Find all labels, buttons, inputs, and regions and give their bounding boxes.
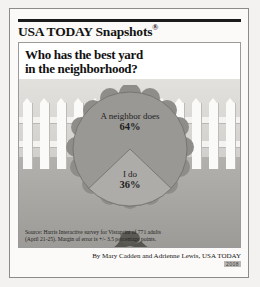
byline-credit: By Mary Cadden and Adrienne Lewis, USA T… xyxy=(92,252,241,261)
page-title: Who has the best yard in the neighborhoo… xyxy=(25,48,225,75)
source-line-2: (April 21-25). Margin of error is +/- 3.… xyxy=(25,236,234,243)
content-panel: Who has the best yard in the neighborhoo… xyxy=(18,42,241,248)
pie-label-value: 64% xyxy=(66,121,194,133)
header-rule xyxy=(18,19,241,22)
illustration-scene: A neighbor does 64% I do 36% Source: Har… xyxy=(19,79,240,247)
brand-name: USA TODAY Snapshots xyxy=(18,24,152,39)
pie-label-text: I do xyxy=(86,169,174,179)
headline-line-1: Who has the best yard xyxy=(25,47,143,62)
pie-label-i-do: I do 36% xyxy=(86,169,174,191)
fence-picket xyxy=(23,103,32,169)
fence-picket xyxy=(226,103,235,169)
brand-title: USA TODAY Snapshots® xyxy=(18,23,241,39)
snapshot-graphic: USA TODAY Snapshots® Who has the best ya… xyxy=(0,0,260,287)
source-note: Source: Harris Interactive survey for Vi… xyxy=(25,229,234,243)
headline-line-2: in the neighborhood? xyxy=(25,62,225,76)
byline-year: 2008 xyxy=(224,261,241,267)
source-line-1: Source: Harris Interactive survey for Vi… xyxy=(25,229,234,236)
registered-mark-icon: ® xyxy=(152,23,158,32)
pie-label-value: 36% xyxy=(86,179,174,191)
pie-label-text: A neighbor does xyxy=(66,111,194,121)
fence-picket xyxy=(40,103,49,169)
pie-chart: A neighbor does 64% I do 36% xyxy=(66,85,194,213)
fence-picket xyxy=(57,103,66,169)
pie-label-a-neighbor-does: A neighbor does 64% xyxy=(66,111,194,133)
pie-slices xyxy=(66,85,194,213)
fence-picket xyxy=(209,103,218,169)
